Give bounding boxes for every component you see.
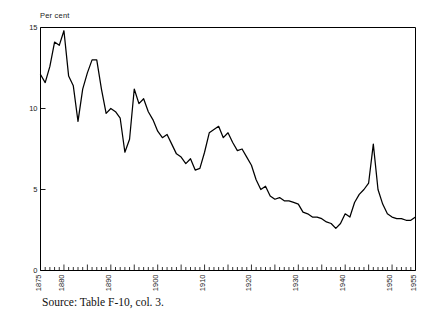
svg-text:1890: 1890 (104, 275, 113, 292)
svg-text:1930: 1930 (291, 275, 300, 292)
x-axis-ticks: 1875188018901900191019201930194019501955 (34, 265, 418, 292)
svg-text:1875: 1875 (34, 275, 43, 292)
svg-text:1910: 1910 (198, 275, 207, 292)
chart-figure: Per cent 051015 187518801890190019101920… (0, 0, 433, 320)
line-chart-plot: 051015 187518801890190019101920193019401… (0, 0, 433, 320)
svg-text:1900: 1900 (151, 275, 160, 292)
plot-frame (41, 28, 416, 271)
data-series-line (41, 31, 416, 229)
svg-text:1880: 1880 (57, 275, 66, 292)
svg-text:1950: 1950 (385, 275, 394, 292)
source-caption: Source: Table F-10, col. 3. (42, 296, 164, 308)
svg-text:1920: 1920 (244, 275, 253, 292)
svg-text:1940: 1940 (338, 275, 347, 292)
svg-text:1955: 1955 (409, 275, 418, 292)
svg-text:15: 15 (29, 23, 37, 32)
svg-text:0: 0 (33, 266, 37, 275)
svg-text:10: 10 (29, 104, 37, 113)
svg-text:5: 5 (33, 185, 37, 194)
y-axis-ticks: 051015 (29, 23, 45, 275)
